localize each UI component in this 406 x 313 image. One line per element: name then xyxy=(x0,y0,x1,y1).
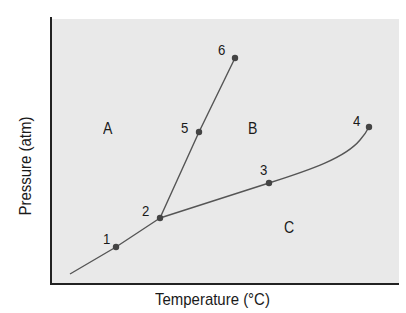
point-6-label: 6 xyxy=(218,42,225,57)
phase-curves xyxy=(0,0,406,313)
region-a-label: A xyxy=(103,121,112,136)
point-6-marker xyxy=(232,55,238,61)
phase-diagram: A B C 1 2 3 4 5 6 Temperature (°C) Press… xyxy=(0,0,406,313)
solid-liquid-curve xyxy=(160,58,235,218)
point-5-label: 5 xyxy=(181,120,188,135)
point-4-marker xyxy=(366,124,372,130)
point-1-marker xyxy=(113,244,119,250)
region-b-label: B xyxy=(248,121,257,136)
y-axis-title: Pressure (atm) xyxy=(16,117,36,216)
region-c-label: C xyxy=(284,220,294,235)
point-5-marker xyxy=(196,129,202,135)
point-2-label: 2 xyxy=(142,203,149,218)
point-4-label: 4 xyxy=(353,113,360,128)
point-3-marker xyxy=(266,180,272,186)
point-1-label: 1 xyxy=(103,231,110,246)
x-axis-title: Temperature (°C) xyxy=(155,290,270,310)
point-3-label: 3 xyxy=(260,162,267,177)
point-2-marker xyxy=(157,215,163,221)
